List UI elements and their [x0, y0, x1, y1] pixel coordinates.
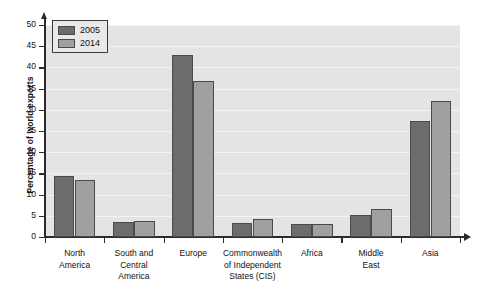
legend-swatch-icon	[58, 39, 75, 48]
legend-item-2005: 2005	[58, 25, 100, 35]
y-tick	[39, 195, 45, 196]
bar	[54, 176, 75, 237]
y-tick-label: 10	[14, 189, 36, 199]
x-axis-arrow-icon	[464, 233, 471, 241]
gridline	[45, 195, 460, 196]
legend-label: 2014	[80, 38, 100, 48]
bar	[232, 223, 253, 237]
x-tick	[460, 237, 461, 243]
y-tick	[39, 110, 45, 111]
y-tick-label: 20	[14, 146, 36, 156]
y-tick-label: 50	[14, 19, 36, 29]
y-tick-label: 40	[14, 61, 36, 71]
y-tick	[39, 25, 45, 26]
legend: 2005 2014	[52, 20, 108, 53]
y-tick-label: 5	[14, 210, 36, 220]
gridline	[45, 152, 460, 153]
x-tick	[401, 237, 402, 243]
x-tick	[341, 237, 342, 243]
gridline	[45, 67, 460, 68]
y-tick-label: 25	[14, 125, 36, 135]
y-axis-arrow-icon	[41, 12, 47, 19]
legend-item-2014: 2014	[58, 38, 100, 48]
bar	[134, 221, 155, 237]
bar	[253, 219, 274, 237]
y-tick	[39, 89, 45, 90]
bar	[193, 81, 214, 237]
bar	[371, 209, 392, 237]
y-tick	[39, 173, 45, 174]
bar	[291, 224, 312, 237]
y-tick	[39, 131, 45, 132]
legend-label: 2005	[80, 25, 100, 35]
y-tick-label: 30	[14, 104, 36, 114]
y-tick	[39, 216, 45, 217]
x-tick	[45, 237, 46, 243]
y-tick-label: 0	[14, 231, 36, 241]
bar	[350, 215, 371, 237]
bar	[410, 121, 431, 237]
y-tick-label: 35	[14, 83, 36, 93]
y-tick	[39, 152, 45, 153]
gridline	[45, 173, 460, 174]
y-axis-line	[44, 18, 46, 238]
bar	[75, 180, 96, 237]
legend-swatch-icon	[58, 26, 75, 35]
y-tick-label: 45	[14, 40, 36, 50]
y-tick-label: 15	[14, 167, 36, 177]
x-tick	[282, 237, 283, 243]
y-tick	[39, 67, 45, 68]
plot-area	[45, 25, 460, 237]
bar	[312, 224, 333, 237]
gridline	[45, 89, 460, 90]
bar	[113, 222, 134, 237]
gridline	[45, 110, 460, 111]
gridline	[45, 131, 460, 132]
x-tick	[223, 237, 224, 243]
x-tick	[104, 237, 105, 243]
bar	[172, 55, 193, 237]
y-tick	[39, 46, 45, 47]
x-axis-label: Asia	[395, 248, 466, 260]
bar-chart: Percentage of world exports 051015202530…	[0, 0, 491, 285]
gridline	[45, 216, 460, 217]
x-tick	[164, 237, 165, 243]
bar	[431, 101, 452, 237]
